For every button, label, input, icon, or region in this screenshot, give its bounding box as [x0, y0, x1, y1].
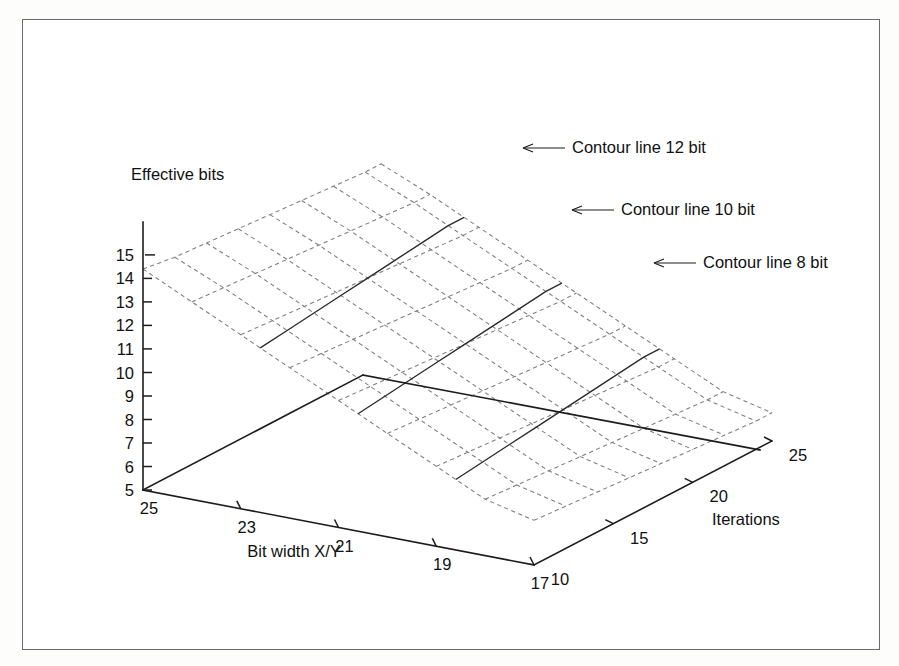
mesh-line	[206, 243, 597, 492]
mesh-line	[436, 359, 674, 467]
contour-line-8-bit	[456, 349, 660, 480]
z-tick-label: 10	[116, 364, 134, 382]
contour-lines	[260, 217, 659, 479]
mesh-line	[534, 413, 772, 521]
x-tick-label: 25	[140, 499, 158, 517]
y-tick-label: 15	[630, 529, 648, 547]
z-tick-label: 7	[125, 434, 134, 452]
x-tick-label: 23	[238, 518, 256, 536]
z-tick-label: 13	[116, 293, 134, 311]
annotation-contour-10: Contour line 10 bit	[572, 200, 755, 218]
surface-plot-svg: 15141312111098765 2523211917 10152025 Ef…	[0, 0, 899, 666]
x-tick-label: 17	[531, 574, 549, 592]
x-tick-labels: 2523211917	[140, 499, 549, 592]
mesh-line	[241, 227, 479, 335]
y-tick-mark	[764, 437, 772, 441]
mesh-line	[270, 215, 661, 464]
y-tick-label: 20	[710, 487, 728, 505]
axes-group	[143, 222, 772, 565]
floor-left-edge	[143, 375, 363, 490]
x-axis-title: Bit width X/Y	[247, 542, 341, 560]
z-tick-label: 11	[117, 340, 134, 358]
mesh-line	[333, 186, 724, 435]
mesh-line	[238, 229, 629, 478]
contour-10-label: Contour line 10 bit	[621, 200, 755, 218]
z-tick-label: 14	[116, 269, 134, 287]
z-tick-label: 6	[125, 458, 134, 476]
contour-12-label: Contour line 12 bit	[572, 138, 706, 156]
floor-far-edge	[363, 375, 760, 450]
y-tick-mark	[605, 520, 613, 524]
z-axis-title: Effective bits	[131, 165, 224, 183]
mesh-line	[143, 269, 534, 520]
annotation-contour-12: Contour line 12 bit	[523, 138, 706, 156]
z-tick-label: 12	[116, 316, 134, 334]
contour-8-label: Contour line 8 bit	[703, 253, 828, 271]
mesh-line	[339, 293, 577, 401]
contour-line-12-bit	[260, 217, 464, 348]
annotation-contour-8: Contour line 8 bit	[654, 253, 828, 271]
mesh-line	[175, 257, 566, 506]
mesh-line	[290, 260, 528, 368]
z-tick-labels: 15141312111098765	[116, 246, 134, 499]
y-axis-title: Iterations	[712, 510, 780, 528]
figure-container: 15141312111098765 2523211917 10152025 Ef…	[0, 0, 899, 666]
z-tick-label: 8	[125, 411, 134, 429]
z-tick-label: 5	[125, 481, 134, 499]
mesh-line	[192, 194, 430, 302]
y-tick-label: 25	[789, 446, 807, 464]
z-tick-label: 9	[125, 387, 134, 405]
y-axis-line	[534, 441, 772, 565]
z-ticks	[143, 255, 155, 490]
mesh-line	[485, 392, 723, 500]
x-tick-label: 19	[433, 555, 451, 573]
y-tick-mark	[685, 478, 693, 482]
y-tick-label: 10	[551, 570, 569, 588]
z-tick-label: 15	[116, 246, 134, 264]
